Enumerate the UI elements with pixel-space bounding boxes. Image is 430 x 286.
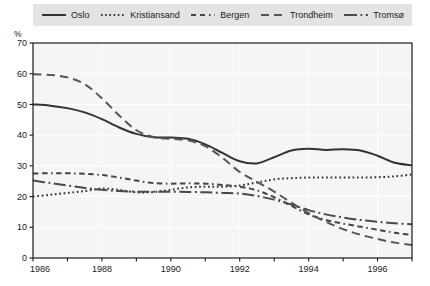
x-tick-label: 1996 bbox=[368, 264, 388, 274]
x-axis-tick-labels: 198619881990199219941996 bbox=[30, 264, 388, 274]
y-tick-label: 10 bbox=[17, 222, 27, 232]
chart-svg: 706050403020100 198619881990199219941996 bbox=[0, 0, 430, 286]
x-tick-label: 1994 bbox=[299, 264, 319, 274]
y-tick-label: 20 bbox=[17, 192, 27, 202]
y-tick-label: 30 bbox=[17, 161, 27, 171]
x-tick-label: 1988 bbox=[92, 264, 112, 274]
x-tick-label: 1986 bbox=[30, 264, 50, 274]
x-tick-label: 1992 bbox=[230, 264, 250, 274]
chart-figure: Oslo Kristiansand Bergen Trondheim Troms bbox=[0, 0, 430, 286]
y-tick-label: 0 bbox=[22, 253, 27, 263]
y-tick-label: 60 bbox=[17, 69, 27, 79]
y-tick-label: 50 bbox=[17, 100, 27, 110]
y-tick-label: 40 bbox=[17, 130, 27, 140]
x-tick-label: 1990 bbox=[161, 264, 181, 274]
plot-area: 706050403020100 198619881990199219941996 bbox=[0, 0, 430, 286]
y-tick-label: 70 bbox=[17, 38, 27, 48]
y-axis-tick-labels: 706050403020100 bbox=[17, 38, 27, 263]
